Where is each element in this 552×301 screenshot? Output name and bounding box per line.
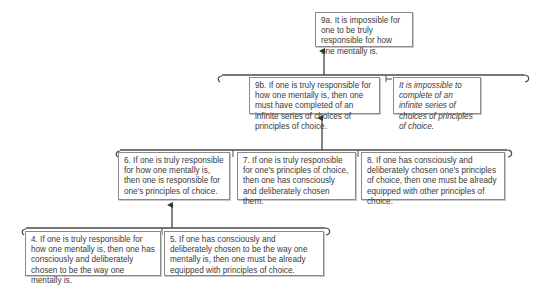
node-5: 5. If one has consciously and deliberate… bbox=[164, 231, 324, 276]
node-9b-support: It is impossible to complete of an infin… bbox=[393, 77, 481, 114]
node-8-text: 8. If one has consciously and deliberate… bbox=[367, 156, 497, 206]
node-5-text: 5. If one has consciously and deliberate… bbox=[170, 235, 307, 275]
node-8: 8. If one has consciously and deliberate… bbox=[361, 152, 505, 200]
node-6-text: 6. If one is truly responsible for how o… bbox=[124, 156, 224, 196]
node-9b: 9b. If one is truly responsible for how … bbox=[249, 77, 380, 114]
node-4: 4. If one is truly responsible for how o… bbox=[25, 231, 161, 276]
node-7: 7. If one is truly responsible for one's… bbox=[237, 152, 356, 200]
node-6: 6. If one is truly responsible for how o… bbox=[118, 152, 230, 200]
node-7-text: 7. If one is truly responsible for one's… bbox=[243, 156, 348, 206]
node-9a: 9a. It is impossible for one to be truly… bbox=[315, 12, 413, 47]
